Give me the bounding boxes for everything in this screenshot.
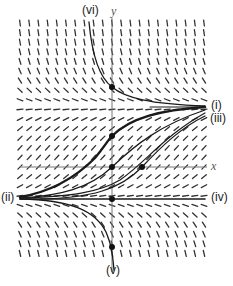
slope-mark [47, 39, 48, 45]
slope-mark [82, 146, 86, 150]
slope-mark [56, 49, 57, 55]
slope-mark [19, 59, 21, 65]
slope-mark [93, 39, 94, 45]
slope-mark [91, 204, 97, 206]
slope-mark [155, 195, 161, 196]
slope-mark [155, 118, 160, 121]
slope-mark [174, 175, 179, 179]
slope-mark [45, 99, 51, 101]
slope-mark [82, 99, 88, 101]
slope-mark [192, 195, 198, 196]
slope-mark [54, 118, 59, 121]
slope-mark [194, 68, 196, 74]
slope-mark [45, 127, 50, 131]
slope-mark [166, 231, 168, 237]
slope-mark [74, 78, 77, 83]
slope-mark [73, 88, 77, 92]
slope-mark [72, 109, 78, 110]
slope-mark [65, 250, 66, 256]
slope-mark [92, 78, 95, 83]
slope-mark [137, 175, 142, 179]
slope-mark [26, 204, 32, 206]
slope-mark [119, 136, 123, 140]
slope-mark [63, 109, 69, 110]
slope-mark [146, 185, 151, 188]
slope-mark [139, 250, 140, 256]
initial-point [109, 133, 115, 139]
slope-mark [147, 88, 151, 92]
slope-mark [18, 222, 21, 227]
slope-mark [148, 59, 150, 65]
slope-mark [146, 175, 151, 179]
slope-mark [64, 213, 68, 217]
slope-mark [93, 241, 95, 247]
slope-mark [81, 109, 87, 110]
slope-mark [28, 59, 30, 65]
slope-mark [157, 250, 158, 256]
slope-mark [128, 88, 132, 92]
slope-mark [128, 155, 132, 159]
axis-label-y: y [111, 5, 116, 17]
slope-mark [185, 49, 186, 55]
slope-mark [101, 136, 105, 140]
slope-mark [83, 78, 86, 83]
slope-mark [127, 195, 133, 196]
slope-mark [56, 241, 58, 247]
slope-mark [193, 213, 197, 217]
slope-mark [183, 213, 187, 217]
slope-mark [38, 49, 39, 55]
slope-mark [148, 39, 149, 45]
slope-mark [121, 30, 122, 36]
slope-mark [137, 109, 143, 110]
slope-mark [184, 155, 188, 159]
slope-mark [75, 20, 76, 26]
slope-mark [183, 185, 188, 188]
slope-mark [148, 241, 150, 247]
slope-mark [82, 88, 86, 92]
slope-mark [38, 30, 39, 36]
slope-mark [72, 99, 78, 101]
slope-mark [55, 222, 58, 227]
slope-mark [91, 88, 95, 92]
slope-mark [19, 49, 20, 55]
slope-mark [183, 175, 188, 179]
slope-mark [202, 127, 207, 131]
slope-mark [102, 59, 104, 65]
slope-mark [75, 30, 76, 36]
slope-mark [82, 155, 86, 159]
slope-mark [157, 231, 159, 237]
slope-mark [63, 99, 69, 101]
slope-mark [174, 88, 178, 92]
slope-mark [38, 250, 39, 256]
slope-mark [54, 175, 59, 179]
initial-point [109, 244, 115, 250]
slope-mark [100, 204, 106, 206]
slope-mark [157, 59, 159, 65]
slope-mark [130, 241, 132, 247]
solution-curve-vi [89, 22, 205, 106]
slope-mark [73, 136, 77, 140]
slope-mark [26, 109, 32, 110]
slope-mark [100, 99, 106, 101]
slope-mark [20, 30, 21, 36]
slope-mark [203, 49, 204, 55]
curve-label-ii: (ii) [1, 191, 14, 203]
initial-point [109, 196, 115, 202]
slope-mark [148, 20, 149, 26]
slope-mark [66, 30, 67, 36]
slope-mark [73, 213, 77, 217]
slope-mark [155, 109, 161, 110]
slope-mark [121, 20, 122, 26]
slope-mark [176, 30, 177, 36]
slope-mark [84, 20, 85, 26]
slope-mark [166, 222, 169, 227]
slope-mark [147, 146, 151, 150]
slope-mark [27, 118, 32, 121]
slope-mark [55, 146, 59, 150]
slope-mark [138, 68, 140, 74]
slope-mark [193, 155, 197, 159]
slope-mark [28, 68, 30, 74]
slope-mark [120, 241, 122, 247]
slope-mark [91, 185, 96, 188]
slope-mark [129, 222, 132, 227]
